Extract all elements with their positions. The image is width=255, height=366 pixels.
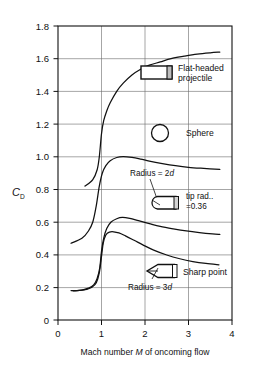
y-tick-label: 1.8 <box>36 21 49 32</box>
y-tick-label: 1.0 <box>36 151 49 162</box>
y-tick-label: 0.2 <box>36 282 49 293</box>
y-tick-label: 0 <box>44 315 49 326</box>
annotation-tip-radius-line1: tip rad.. <box>186 192 213 201</box>
y-tick-label: 0.8 <box>36 184 49 195</box>
y-tick-label: 0.4 <box>36 249 49 260</box>
sphere-icon <box>152 125 169 142</box>
x-tick-label: 3 <box>186 328 191 339</box>
legend-label-flat-headed-line2: projectile <box>178 73 213 83</box>
flat-nose-projectile-icon <box>141 66 172 79</box>
y-tick-label: 1.4 <box>36 86 49 97</box>
x-tick-label: 4 <box>229 328 234 339</box>
legend-label-sharp-point: Sharp point <box>183 267 228 277</box>
x-axis-caption: Mach number M of oncoming flow <box>81 347 211 357</box>
annotation-tip-radius-line2: =0.36 <box>186 202 207 211</box>
x-tick-label: 1 <box>99 328 104 339</box>
y-tick-label: 1.6 <box>36 53 49 64</box>
annotation-radius-2d: Radius = 2d <box>130 169 174 178</box>
y-tick-label: 1.2 <box>36 119 49 130</box>
legend-label-flat-headed-line1: Flat-headed <box>178 63 224 73</box>
x-tick-label: 2 <box>142 328 147 339</box>
legend-label-sphere: Sphere <box>186 128 214 138</box>
annotation-radius-3d: Radius = 3d <box>128 283 172 292</box>
x-tick-label: 0 <box>55 328 60 339</box>
drag-coefficient-chart: 1.8 1.6 1.4 1.2 1.0 0.8 0.6 0.4 0.2 0 0 … <box>0 0 255 366</box>
round-nose-projectile-icon <box>152 197 179 210</box>
y-tick-label: 0.6 <box>36 217 49 228</box>
